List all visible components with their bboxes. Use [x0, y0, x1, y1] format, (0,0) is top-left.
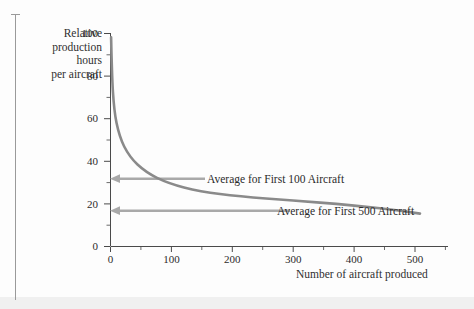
y-tick-label-60: 60 — [72, 112, 98, 124]
annotation-arrow-first-500 — [110, 206, 290, 215]
y-tick-label-40: 40 — [72, 155, 98, 167]
annotation-label-first-100: Average for First 100 Aircraft — [207, 173, 344, 185]
x-tick-label-400: 400 — [339, 253, 369, 265]
y-axis-minor-ticks — [107, 55, 111, 225]
x-tick-label-100: 100 — [156, 253, 186, 265]
learning-curve-line — [111, 37, 420, 213]
y-tick-label-0: 0 — [72, 240, 98, 252]
x-axis-title: Number of aircraft produced — [296, 268, 428, 280]
x-tick-label-500: 500 — [400, 253, 430, 265]
learning-curve-figure: 0 20 40 60 80 100 0 100 200 300 400 500 … — [0, 0, 474, 309]
y-axis-title: Relative production hours per aircraft — [18, 27, 102, 81]
x-tick-label-0: 0 — [96, 253, 126, 265]
x-tick-label-200: 200 — [217, 253, 247, 265]
annotation-label-first-500: Average for First 500 Aircraft — [277, 205, 414, 217]
y-tick-label-20: 20 — [72, 198, 98, 210]
x-tick-label-300: 300 — [278, 253, 308, 265]
